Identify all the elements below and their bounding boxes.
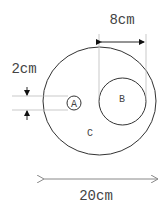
label-8cm: 8cm [109,12,134,28]
label-a: A [71,99,77,110]
circles-diagram: A B C 2cm 8cm 20cm [0,0,167,209]
label-2cm: 2cm [11,61,36,77]
label-20cm: 20cm [79,188,113,204]
label-b: B [119,94,125,105]
label-c: C [87,128,93,139]
